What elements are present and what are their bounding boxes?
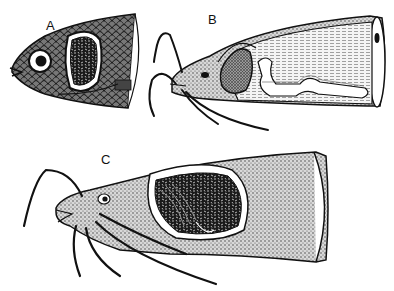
panel-a-fish-head (10, 14, 139, 108)
eye-icon (201, 72, 209, 78)
panel-label-a: A (46, 18, 55, 33)
eye-icon (29, 50, 51, 72)
panel-label-b: B (208, 12, 217, 27)
panel-label-c: C (101, 152, 110, 167)
eye-icon (98, 194, 110, 204)
panel-c-catfish-head (24, 152, 328, 284)
figure-canvas (0, 0, 394, 291)
labyrinth-organ (148, 165, 248, 240)
panel-b-catfish-head (149, 16, 385, 130)
